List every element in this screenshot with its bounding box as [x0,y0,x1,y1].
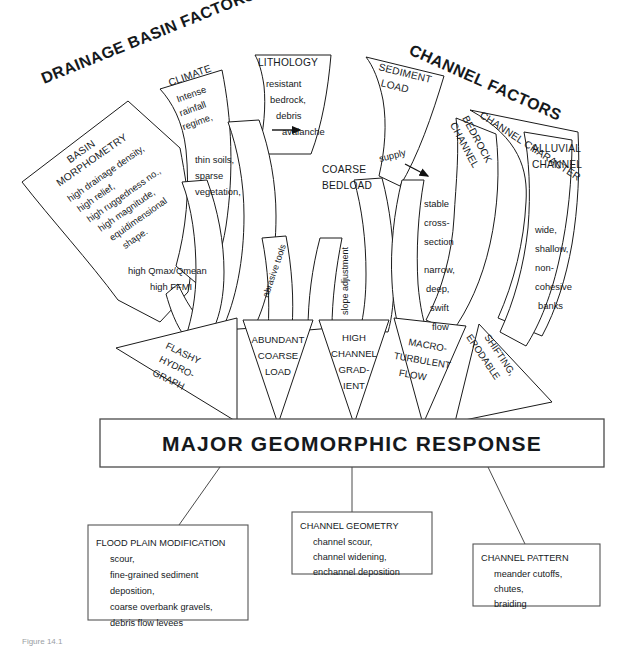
svg-text:debris flow levees: debris flow levees [110,618,183,628]
svg-text:resistant: resistant [266,78,302,89]
svg-text:FLOOD PLAIN MODIFICATION: FLOOD PLAIN MODIFICATION [96,538,226,548]
svg-text:deposition,: deposition, [110,586,154,596]
geomorphic-response-diagram: DRAINAGE BASIN FACTORS CHANNEL FACTORS B… [0,0,619,646]
banner-drainage-basin-factors: DRAINAGE BASIN FACTORS [39,0,258,87]
svg-text:bedrock,: bedrock, [270,94,306,105]
svg-text:meander cutoffs,: meander cutoffs, [494,569,562,579]
lobe-bedload [354,178,394,332]
svg-text:sparse: sparse [195,170,223,181]
svg-text:thin soils,: thin soils, [195,154,234,165]
label-climate-output: thin soils, sparse vegetation, [195,154,241,197]
connector-to-channel-pattern [488,467,525,544]
svg-text:deep,: deep, [426,283,449,294]
svg-text:HIGH: HIGH [342,332,366,343]
svg-text:LITHOLOGY: LITHOLOGY [258,57,318,68]
label-macroturbulent-flow: MACRO- TURBULENT FLOW [390,334,454,386]
svg-text:section: section [424,236,454,247]
svg-text:CHANNEL: CHANNEL [532,159,582,170]
label-slope-adjustment: slope adjustment [340,246,350,315]
svg-text:DRAINAGE BASIN FACTORS: DRAINAGE BASIN FACTORS [39,0,258,87]
svg-text:high FFMI: high FFMI [150,281,192,292]
svg-text:scour,: scour, [110,554,135,564]
svg-text:enchannel deposition: enchannel deposition [313,567,400,577]
svg-text:wide,: wide, [534,224,557,235]
svg-text:shallow,: shallow, [535,243,568,254]
svg-text:cross-: cross- [424,217,450,228]
svg-text:high Qmax/Qmean: high Qmax/Qmean [128,265,207,276]
svg-text:braiding: braiding [494,599,527,609]
connector-to-flood-plain [179,467,220,525]
figure-caption: Figure 14.1 [22,637,63,646]
svg-text:channel widening,: channel widening, [313,552,387,562]
svg-text:channel scour,: channel scour, [313,537,372,547]
svg-text:ABUNDANT: ABUNDANT [252,334,305,345]
svg-text:flow: flow [432,321,449,332]
svg-text:non-: non- [535,262,554,273]
svg-text:CHANNEL: CHANNEL [331,348,378,359]
svg-text:swift: swift [430,302,449,313]
diagram-page: DRAINAGE BASIN FACTORS CHANNEL FACTORS B… [0,0,619,646]
svg-text:GRAD-: GRAD- [339,364,370,375]
svg-text:narrow,: narrow, [424,264,455,275]
svg-text:avalanche: avalanche [282,126,325,137]
svg-text:stable: stable [424,198,449,209]
svg-text:fine-grained sediment: fine-grained sediment [110,570,199,580]
svg-text:CHANNEL GEOMETRY: CHANNEL GEOMETRY [300,521,399,531]
svg-text:COARSE: COARSE [258,350,299,361]
lobe-gradient [308,238,342,330]
svg-text:banks: banks [538,300,563,311]
label-coarse-bedload: COARSE BEDLOAD [322,164,372,191]
major-response-label: MAJOR GEOMORPHIC RESPONSE [162,432,542,455]
svg-text:debris: debris [276,110,302,121]
svg-text:BEDLOAD: BEDLOAD [322,180,372,191]
svg-text:ALLUVIAL: ALLUVIAL [532,143,581,154]
svg-text:slope adjustment: slope adjustment [340,246,350,315]
svg-text:vegetation,: vegetation, [195,186,241,197]
lobe-bedrock-flow [391,180,428,334]
svg-text:COARSE: COARSE [322,164,366,175]
svg-text:chutes,: chutes, [494,584,524,594]
svg-text:cohesive: cohesive [535,281,572,292]
svg-text:coarse overbank gravels,: coarse overbank gravels, [110,602,213,612]
svg-text:IENT: IENT [343,380,365,391]
svg-text:LOAD: LOAD [265,366,291,377]
svg-text:CHANNEL PATTERN: CHANNEL PATTERN [481,553,569,563]
